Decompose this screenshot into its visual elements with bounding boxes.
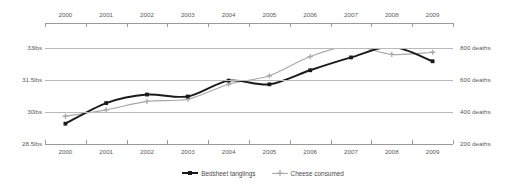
axis-tick	[453, 140, 454, 144]
axis-tick	[249, 23, 250, 27]
axis-tick	[45, 23, 46, 27]
gridline	[45, 80, 453, 81]
data-point-marker[interactable]	[267, 73, 272, 78]
legend-item-bedsheet-tanglings[interactable]: Bedsheet tanglings	[182, 169, 255, 177]
data-point-marker[interactable]	[63, 114, 68, 119]
right-y-tick-600 deaths: 600 deaths	[460, 76, 520, 84]
gridline	[45, 112, 453, 113]
top-axis	[45, 23, 453, 24]
axis-tick	[290, 23, 291, 27]
data-point-marker[interactable]	[268, 82, 272, 86]
chart-container: 33lbs31.5lbs30lbs28.5lbs 800 deaths600 d…	[0, 0, 526, 185]
left-y-tick-28.5lbs: 28.5lbs	[2, 140, 42, 148]
left-y-tick-31.5lbs: 31.5lbs	[2, 76, 42, 84]
data-point-marker[interactable]	[104, 101, 108, 105]
legend-swatch-cheese-consumed	[272, 169, 288, 177]
left-y-tick-33lbs: 33lbs	[2, 44, 42, 52]
right-y-tick-800 deaths: 800 deaths	[460, 44, 520, 52]
data-point-marker[interactable]	[144, 99, 149, 104]
data-point-marker[interactable]	[349, 56, 353, 60]
data-point-marker[interactable]	[145, 93, 149, 97]
axis-tick	[86, 23, 87, 27]
axis-tick	[208, 23, 209, 27]
axis-tick	[371, 23, 372, 27]
axis-tick	[331, 23, 332, 27]
legend-swatch-bedsheet-tanglings	[182, 169, 198, 177]
bottom-x-tick-2009: 2009	[403, 148, 463, 156]
right-y-tick-200 deaths: 200 deaths	[460, 140, 520, 148]
right-y-tick-400 deaths: 400 deaths	[460, 108, 520, 116]
bottom-axis	[45, 144, 453, 145]
series-bedsheet-tanglings	[64, 48, 435, 126]
data-point-marker[interactable]	[308, 54, 313, 59]
series-plot	[45, 48, 453, 144]
axis-tick	[412, 23, 413, 27]
data-point-marker[interactable]	[64, 122, 68, 126]
plus-marker-icon	[277, 170, 283, 176]
plot-area	[45, 48, 453, 144]
axis-tick	[127, 23, 128, 27]
legend-label-bedsheet-tanglings: Bedsheet tanglings	[201, 170, 255, 177]
data-point-marker[interactable]	[431, 59, 435, 63]
legend-label-cheese-consumed: Cheese consumed	[291, 170, 344, 177]
axis-tick	[453, 23, 454, 27]
data-point-marker[interactable]	[389, 52, 394, 57]
axis-tick	[167, 23, 168, 27]
chart-legend: Bedsheet tanglings Cheese consumed	[0, 167, 526, 179]
legend-item-cheese-consumed[interactable]: Cheese consumed	[272, 169, 344, 177]
data-point-marker[interactable]	[186, 95, 190, 99]
top-x-tick-2009: 2009	[403, 11, 463, 19]
gridline	[45, 48, 453, 49]
data-point-marker[interactable]	[308, 68, 312, 72]
series-cheese-consumed	[63, 48, 435, 119]
left-y-tick-30lbs: 30lbs	[2, 108, 42, 116]
square-marker-icon	[188, 171, 192, 175]
data-point-marker[interactable]	[430, 50, 435, 55]
